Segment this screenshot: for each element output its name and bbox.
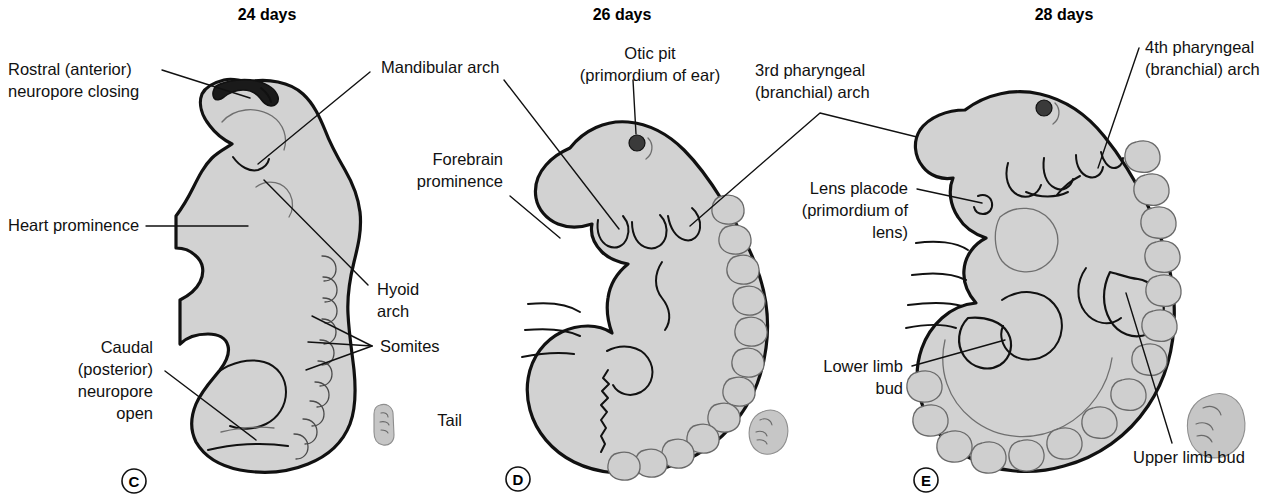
label-rostral-neuropore-line2: neuropore closing (8, 82, 139, 100)
label-rostral-neuropore-line1: Rostral (anterior) (8, 60, 132, 78)
embryo-development-figure: 24 days 26 days 28 days (0, 0, 1270, 497)
label-caudal-line3: neuropore (78, 382, 153, 400)
panel-title-28-days: 28 days (1035, 6, 1094, 23)
label-tail: Tail (437, 411, 462, 429)
label-otic-pit-line1: Otic pit (624, 44, 676, 62)
actual-size-embryo-c (374, 404, 394, 445)
panel-letter-c-text: C (129, 473, 140, 490)
label-hyoid-arch-line1: Hyoid (377, 280, 419, 298)
label-caudal-line4: open (116, 404, 153, 422)
label-third-arch-line2: (branchial) arch (755, 83, 870, 101)
label-lens-placode-line2: (primordium of (802, 201, 909, 219)
panel-letter-e-text: E (921, 472, 931, 489)
label-lens-placode-line3: lens) (872, 223, 908, 241)
label-upper-limb-bud: Upper limb bud (1133, 448, 1245, 466)
label-mandibular-arch: Mandibular arch (381, 58, 499, 76)
embryo-e-otic-pit (1036, 100, 1052, 116)
diagram-canvas: 24 days 26 days 28 days (0, 0, 1270, 497)
panel-title-26-days: 26 days (593, 6, 652, 23)
label-lower-limb-line2: bud (875, 379, 903, 397)
otic-pit-dot (629, 135, 645, 151)
label-somites: Somites (380, 337, 440, 355)
label-otic-pit-line2: (primordium of ear) (580, 66, 720, 84)
panel-title-24-days: 24 days (238, 6, 297, 23)
label-forebrain-line1: Forebrain (432, 150, 503, 168)
actual-size-embryo-d (749, 410, 788, 454)
label-fourth-arch-line2: (branchial) arch (1145, 60, 1260, 78)
label-caudal-line2: (posterior) (78, 360, 153, 378)
label-forebrain-line2: prominence (417, 172, 503, 190)
label-third-arch-line1: 3rd pharyngeal (755, 61, 865, 79)
label-lower-limb-line1: Lower limb (823, 357, 903, 375)
label-heart-prominence: Heart prominence (8, 216, 139, 234)
label-lens-placode-line1: Lens placode (810, 179, 908, 197)
panel-letter-d-text: D (513, 471, 524, 488)
label-fourth-arch-line1: 4th pharyngeal (1145, 38, 1254, 56)
label-hyoid-arch-line2: arch (377, 302, 409, 320)
label-caudal-line1: Caudal (101, 338, 153, 356)
